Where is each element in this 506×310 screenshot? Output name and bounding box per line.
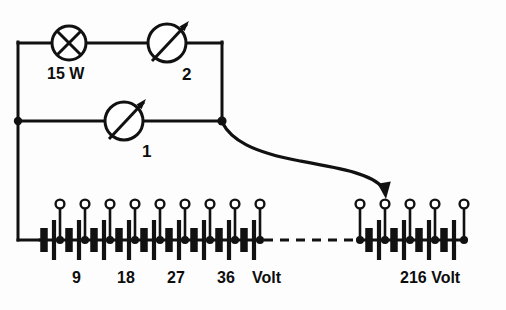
- meter-1-label: 1: [142, 143, 151, 160]
- curved-arrow-icon: [222, 122, 391, 199]
- battery-tap-terminal[interactable]: [231, 200, 240, 244]
- unit-label-volt: Volt: [252, 270, 281, 286]
- variable-meter-2-icon: [148, 21, 189, 62]
- battery-tap-terminal[interactable]: [431, 200, 440, 244]
- battery-tap-terminal[interactable]: [106, 200, 115, 244]
- circuit-diagram: 15 W 2 1 9 18 27 36 Volt 216 Volt: [0, 0, 506, 310]
- scale-label-36: 36: [217, 270, 235, 286]
- meter-2-label: 2: [182, 66, 191, 83]
- battery-tap-terminal[interactable]: [406, 200, 415, 244]
- battery-tap-terminal[interactable]: [181, 200, 190, 244]
- battery-tap-terminal[interactable]: [131, 200, 140, 244]
- scale-label-18: 18: [117, 270, 135, 286]
- scale-label-27: 27: [167, 270, 185, 286]
- battery-tap-terminal[interactable]: [156, 200, 165, 244]
- battery-return-wires: [18, 120, 40, 240]
- lamp-power-label: 15 W: [47, 66, 84, 82]
- max-voltage-label: 216 Volt: [400, 270, 460, 286]
- battery-tap-terminal[interactable]: [356, 200, 365, 244]
- battery-tap-terminal[interactable]: [81, 200, 90, 244]
- battery-tap-terminal-selected[interactable]: [381, 200, 390, 244]
- lamp-circle-cross-icon: [52, 26, 86, 60]
- battery-left-group: [40, 200, 264, 260]
- battery-tap-terminal[interactable]: [460, 200, 469, 244]
- scale-label-9: 9: [72, 270, 81, 286]
- battery-tap-terminal[interactable]: [206, 200, 215, 244]
- battery-tap-terminal[interactable]: [256, 200, 265, 244]
- circuit-canvas: [0, 0, 506, 310]
- battery-tap-terminal[interactable]: [56, 200, 65, 244]
- variable-meter-1-icon: [105, 99, 146, 140]
- junction-dot-left: [14, 117, 22, 125]
- battery-right-group: [356, 200, 469, 260]
